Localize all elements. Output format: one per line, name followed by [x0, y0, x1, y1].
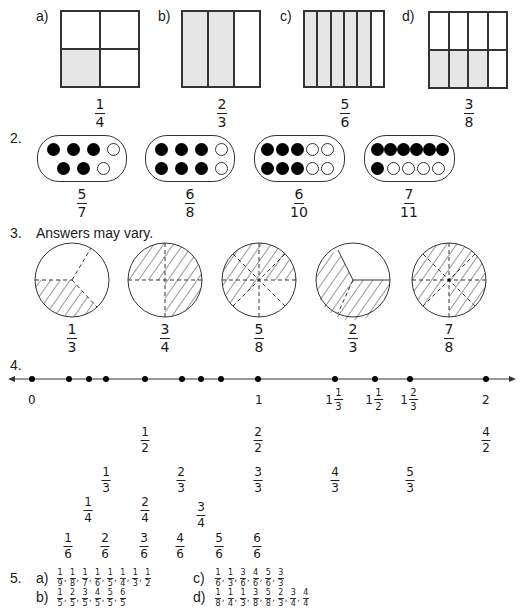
q1b-label: b)	[158, 8, 170, 24]
q3a-circle	[35, 243, 109, 317]
q3d-circle	[316, 243, 390, 320]
q2b-counters	[145, 135, 235, 182]
q1a-fraction: 14	[95, 97, 105, 130]
tick-1-2-3: 123	[400, 387, 418, 412]
q2b-fraction: 68	[185, 187, 195, 220]
q3c-fraction: 58	[254, 322, 264, 355]
half-1: 12	[141, 426, 150, 455]
q5d-sequence: 18, 14, 13, 38, 58, 23, 34, 44	[215, 589, 310, 608]
q3b-fraction: 34	[160, 322, 170, 355]
q1a-label: a)	[36, 8, 48, 24]
third-3: 33	[254, 466, 263, 495]
q5-number: 5.	[10, 570, 22, 586]
q2c-fraction: 610	[290, 187, 308, 220]
q3a-fraction: 13	[67, 322, 77, 355]
q2d-counters	[364, 135, 455, 182]
tick-2: 2	[482, 393, 490, 407]
half-4: 42	[482, 426, 491, 455]
q2-number: 2.	[10, 130, 22, 146]
q2c-counters	[254, 135, 345, 182]
q1b-grid	[181, 10, 261, 88]
q3d-fraction: 23	[348, 322, 358, 355]
q5c-sequence: 16, 13, 36, 46, 56, 33	[215, 569, 285, 588]
q1c-grid	[303, 10, 385, 88]
q1d-grid	[428, 11, 508, 89]
half-2: 22	[254, 426, 263, 455]
q5a-sequence: 19, 18, 17, 16, 15, 14, 13, 12	[57, 569, 152, 588]
q3-instruction: Answers may vary.	[36, 225, 153, 241]
q5b-label: b)	[36, 589, 48, 605]
q2a-fraction: 57	[77, 187, 87, 220]
q2a-counters	[37, 135, 127, 182]
q3e-circle	[412, 243, 486, 317]
tick-1-1-2: 112	[365, 387, 383, 412]
third-4: 43	[331, 466, 340, 495]
q3-circles	[0, 240, 521, 320]
sixth-3: 36	[140, 532, 149, 561]
sixth-2: 26	[101, 532, 110, 561]
q5d-label: d)	[193, 589, 205, 605]
third-2: 23	[177, 466, 186, 495]
third-1: 13	[102, 466, 111, 495]
q1b-fraction: 23	[217, 97, 227, 130]
q5a-label: a)	[36, 570, 48, 586]
quarter-2: 24	[141, 496, 150, 525]
third-5: 53	[406, 466, 415, 495]
sixth-5: 56	[215, 532, 224, 561]
q2d-fraction: 711	[400, 187, 418, 220]
q3b-circle	[128, 243, 202, 317]
q1c-label: c)	[280, 8, 292, 24]
tick-1: 1	[255, 393, 263, 407]
q3e-fraction: 78	[444, 322, 454, 355]
sixth-4: 46	[176, 532, 185, 561]
tick-0: 0	[28, 393, 36, 407]
q1d-fraction: 38	[464, 97, 474, 130]
tick-1-1-3: 113	[325, 387, 343, 412]
q3c-circle	[222, 243, 296, 317]
q5c-label: c)	[193, 570, 205, 586]
sixth-6: 66	[253, 532, 262, 561]
q3-number: 3.	[10, 225, 22, 241]
q1a-grid	[60, 10, 140, 88]
q1d-label: d)	[402, 8, 414, 24]
sixth-1: 16	[64, 532, 73, 561]
quarter-1: 14	[84, 496, 93, 525]
q5b-sequence: 15, 25, 35, 45, 55, 65	[57, 589, 127, 608]
quarter-3: 34	[197, 501, 206, 530]
q1c-fraction: 56	[340, 97, 350, 130]
